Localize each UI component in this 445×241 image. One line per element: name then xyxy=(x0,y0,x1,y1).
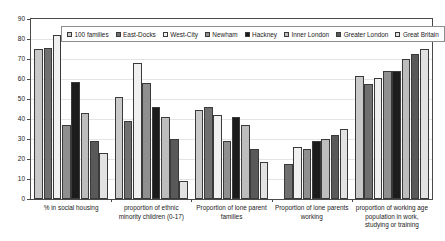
bar-slot xyxy=(133,19,142,199)
legend-label: Great Britain xyxy=(403,31,439,38)
bar xyxy=(420,49,429,199)
category-tick xyxy=(352,199,353,202)
bar-slot xyxy=(275,19,284,199)
bar-slot xyxy=(383,19,392,199)
bar-group xyxy=(272,19,352,199)
bar xyxy=(411,54,420,199)
bar-slot xyxy=(374,19,383,199)
legend-swatch-icon xyxy=(116,32,121,37)
bar-group xyxy=(111,19,191,199)
bar-slot xyxy=(392,19,401,199)
category-tick xyxy=(111,199,112,202)
bar xyxy=(374,78,383,199)
bars-layer xyxy=(31,19,432,199)
bar-slot xyxy=(250,19,259,199)
bar-slot xyxy=(232,19,241,199)
bar xyxy=(303,149,312,199)
bar-slot xyxy=(411,19,420,199)
bar xyxy=(321,139,330,199)
y-tick-label: 40 xyxy=(18,116,25,123)
bar-slot xyxy=(213,19,222,199)
bar-slot xyxy=(331,19,340,199)
bar xyxy=(81,113,90,199)
bar xyxy=(260,162,269,199)
bar xyxy=(213,115,222,199)
bar-slot xyxy=(99,19,108,199)
bar xyxy=(241,125,250,199)
bar-slot xyxy=(402,19,411,199)
bar-slot xyxy=(170,19,179,199)
bar xyxy=(133,63,142,199)
chart-legend: 100 familiesEast-DocksWest-CityNewhamHac… xyxy=(61,26,445,42)
bar xyxy=(170,139,179,199)
bar-slot xyxy=(284,19,293,199)
bar xyxy=(90,141,99,199)
y-tick-label: 0 xyxy=(21,196,25,203)
bar-slot xyxy=(124,19,133,199)
bar-slot xyxy=(115,19,124,199)
x-axis-label: proportion of working age population in … xyxy=(352,204,432,230)
legend-item[interactable]: Greater London xyxy=(336,31,388,38)
x-axis-labels: % in social housingproportion of ethnic … xyxy=(31,204,432,230)
legend-item[interactable]: 100 families xyxy=(67,31,109,38)
bar-group xyxy=(352,19,432,199)
bar-slot xyxy=(44,19,53,199)
bar-slot xyxy=(62,19,71,199)
bar-slot xyxy=(312,19,321,199)
bar xyxy=(124,121,133,199)
legend-label: Inner London xyxy=(291,31,329,38)
bar-slot xyxy=(90,19,99,199)
bar-slot xyxy=(420,19,429,199)
bar-group xyxy=(31,19,111,199)
bar-slot xyxy=(161,19,170,199)
bar-slot xyxy=(81,19,90,199)
bar xyxy=(312,141,321,199)
legend-label: 100 families xyxy=(75,31,109,38)
bar-slot xyxy=(355,19,364,199)
bar xyxy=(364,84,373,199)
bar xyxy=(232,117,241,199)
bar xyxy=(161,117,170,199)
bar-slot xyxy=(321,19,330,199)
category-tick xyxy=(272,199,273,202)
legend-item[interactable]: Newham xyxy=(205,31,238,38)
bar-slot xyxy=(179,19,188,199)
legend-swatch-icon xyxy=(67,32,72,37)
bar xyxy=(250,149,259,199)
bar xyxy=(99,153,108,199)
bar xyxy=(152,107,161,199)
bar-slot xyxy=(152,19,161,199)
bar xyxy=(223,141,232,199)
bar-slot xyxy=(71,19,80,199)
legend-item[interactable]: Hackney xyxy=(245,31,277,38)
x-axis-label: proportion of ethnic minority children (… xyxy=(111,204,191,230)
bar xyxy=(179,181,188,199)
y-axis: 0102030405060708090 xyxy=(0,18,30,200)
legend-label: East-Docks xyxy=(123,31,156,38)
bar-slot xyxy=(293,19,302,199)
bar-slot xyxy=(364,19,373,199)
bar-slot xyxy=(303,19,312,199)
bar xyxy=(142,83,151,199)
bar xyxy=(293,147,302,199)
legend-item[interactable]: West-City xyxy=(163,31,198,38)
legend-swatch-icon xyxy=(336,32,341,37)
legend-swatch-icon xyxy=(163,32,168,37)
legend-item[interactable]: East-Docks xyxy=(116,31,156,38)
legend-label: West-City xyxy=(170,31,198,38)
x-axis-label: % in social housing xyxy=(31,204,111,230)
bar-slot xyxy=(195,19,204,199)
bar xyxy=(44,48,53,199)
x-axis-label: Proportion of lone parent families xyxy=(191,204,271,230)
bar-slot xyxy=(340,19,349,199)
y-tick-label: 80 xyxy=(18,36,25,43)
bar-group xyxy=(191,19,271,199)
bar-slot xyxy=(241,19,250,199)
legend-item[interactable]: Inner London xyxy=(284,31,329,38)
y-tick-label: 50 xyxy=(18,96,25,103)
bar-slot xyxy=(204,19,213,199)
bar xyxy=(204,107,213,199)
legend-swatch-icon xyxy=(205,32,210,37)
legend-item[interactable]: Great Britain xyxy=(395,31,438,38)
